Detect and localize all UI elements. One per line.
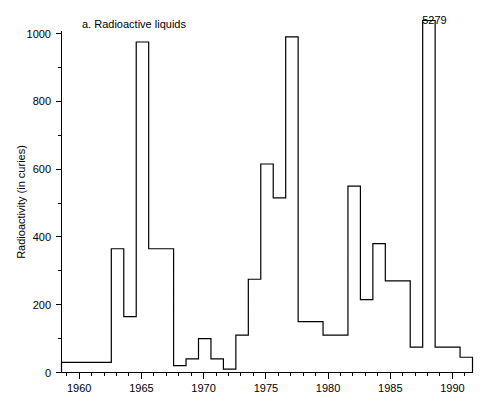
x-tick-label-1960: 1960 <box>67 382 91 394</box>
y-tick-label-0: 0 <box>45 367 51 379</box>
x-tick-label-1985: 1985 <box>378 382 402 394</box>
y-tick-label-600: 600 <box>33 163 51 175</box>
chart-background <box>0 0 493 417</box>
y-tick-label-1000: 1000 <box>27 28 51 40</box>
radioactive-liquids-step-chart: 0 200 400 600 800 1000 Radioactivity (in… <box>0 0 493 417</box>
x-tick-label-1975: 1975 <box>254 382 278 394</box>
x-tick-label-1965: 1965 <box>129 382 153 394</box>
chart-figure: 0 200 400 600 800 1000 Radioactivity (in… <box>0 0 493 417</box>
x-tick-label-1970: 1970 <box>191 382 215 394</box>
x-tick-label-1990: 1990 <box>440 382 464 394</box>
y-axis-title: Radioactivity (in curies) <box>15 145 27 259</box>
y-tick-label-400: 400 <box>33 231 51 243</box>
y-tick-label-800: 800 <box>33 95 51 107</box>
x-tick-label-1980: 1980 <box>316 382 340 394</box>
y-tick-label-200: 200 <box>33 299 51 311</box>
panel-title: a. Radioactive liquids <box>82 18 186 30</box>
